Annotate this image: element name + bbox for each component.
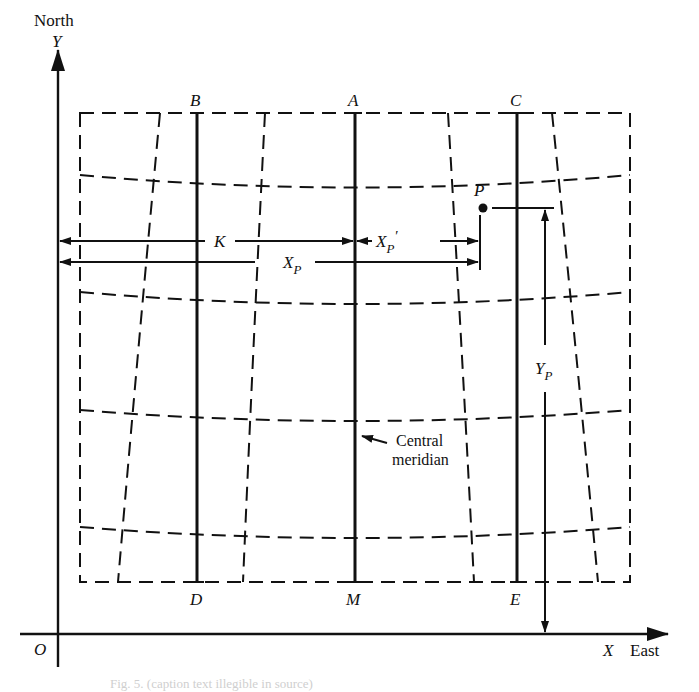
label-b: B <box>190 91 201 110</box>
label-m: M <box>345 590 361 609</box>
point-p-marker <box>479 204 488 213</box>
xp-subscript: P <box>292 262 301 277</box>
xp-prime-mark: ′ <box>394 228 398 244</box>
label-d: D <box>189 590 203 609</box>
origin-label: O <box>34 640 46 659</box>
xp-prime-main: X <box>375 232 387 251</box>
label-a: A <box>347 91 359 110</box>
label-e: E <box>509 590 521 609</box>
axes <box>20 50 668 667</box>
xp-prime-subscript: P <box>385 241 394 256</box>
north-label: North <box>34 11 74 30</box>
east-label: East <box>630 641 660 660</box>
labels: North Y O X East B A C D M E P K XP′ XP … <box>34 11 660 660</box>
label-c: C <box>510 91 522 110</box>
map-grid-diagram: North Y O X East B A C D M E P K XP′ XP … <box>0 0 699 692</box>
yp-label: YP <box>535 359 552 383</box>
xp-label: XP <box>282 253 301 277</box>
y-axis-label: Y <box>52 32 63 51</box>
meridian-curve-1 <box>118 113 160 582</box>
central-meridian-label-line2: meridian <box>392 451 449 468</box>
xp-main: X <box>282 253 294 272</box>
k-label: K <box>213 232 227 251</box>
meridian-curve-4 <box>552 113 598 582</box>
meridian-curve-2 <box>243 113 265 582</box>
xp-prime-label: XP′ <box>375 228 398 256</box>
central-meridian-label-line1: Central <box>396 432 444 449</box>
meridian-curve-3 <box>448 113 474 582</box>
figure-caption: Fig. 5. (caption text illegible in sourc… <box>110 676 570 692</box>
yp-subscript: P <box>543 368 552 383</box>
x-axis-label: X <box>602 641 614 660</box>
central-meridian-leader <box>362 436 387 443</box>
point-p-label: P <box>473 181 484 200</box>
